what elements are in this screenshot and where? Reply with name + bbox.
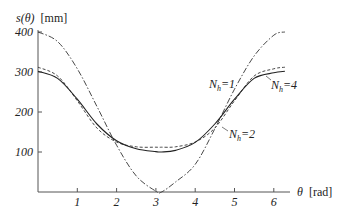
x-ticks <box>77 188 273 192</box>
y-tick-label-200: 200 <box>15 105 33 119</box>
x-tick-label-2: 2 <box>114 195 120 209</box>
y-tick-label-100: 100 <box>15 145 33 159</box>
x-tick-label-4: 4 <box>192 195 198 209</box>
x-tick-label-3: 3 <box>152 195 159 209</box>
y-tick-label-400: 400 <box>15 25 33 39</box>
x-tick-label-1: 1 <box>74 195 80 209</box>
annotation-nh1: Nh=1 <box>208 77 235 93</box>
y-axis-title: s(θ) [mm] <box>16 11 67 25</box>
annotation-nh4: Nh=4 <box>270 78 297 94</box>
annotation-nh2: Nh=2 <box>228 127 255 143</box>
annotation-nh2-leader <box>222 127 228 131</box>
x-axis-title: θ [rad] <box>297 185 332 199</box>
y-tick-label-300: 300 <box>14 65 33 79</box>
curve-nh-1 <box>38 32 285 193</box>
line-chart: 400 300 200 100 1 2 3 4 5 6 s(θ) [mm] θ … <box>0 0 344 216</box>
x-tick-label-5: 5 <box>232 195 238 209</box>
x-tick-label-6: 6 <box>271 195 277 209</box>
y-ticks <box>38 32 42 152</box>
